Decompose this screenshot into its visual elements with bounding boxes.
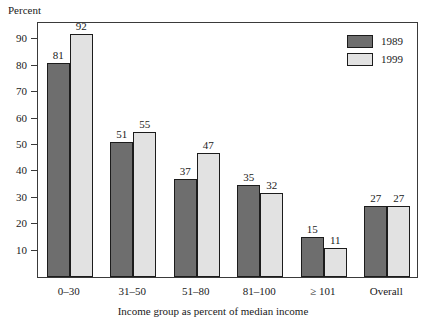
bar-value-label: 92	[66, 20, 97, 32]
bar	[174, 179, 197, 277]
bar-group: 3532	[229, 23, 293, 277]
y-axis-tick: 10	[31, 250, 38, 251]
legend-item: 1999	[347, 53, 403, 66]
bar	[364, 206, 387, 277]
bar-value-label: 27	[383, 192, 414, 204]
x-axis-tick-label: 0–30	[37, 284, 101, 298]
plot-frame: 102030405060708090 819251553747353215112…	[37, 22, 418, 278]
y-axis-tick-label: 80	[16, 58, 27, 73]
plot-area: 102030405060708090 819251553747353215112…	[38, 23, 417, 277]
bar-value-label: 11	[320, 234, 351, 246]
y-axis-tick: 50	[31, 144, 38, 145]
legend-label: 1989	[381, 35, 403, 48]
bar-group: 3747	[165, 23, 229, 277]
y-axis-tick-label: 20	[16, 216, 27, 231]
bar	[47, 63, 70, 277]
y-axis-tick: 90	[31, 38, 38, 39]
bar	[70, 34, 93, 277]
y-axis-tick-label: 30	[16, 190, 27, 205]
bar	[133, 132, 156, 277]
legend-swatch	[347, 35, 373, 48]
x-axis-tick-label: 31–50	[101, 284, 165, 298]
legend-label: 1999	[381, 53, 403, 66]
x-axis-tick-label: 81–100	[228, 284, 292, 298]
y-axis-tick: 20	[31, 223, 38, 224]
x-axis-tick-label: Overall	[355, 284, 419, 298]
y-axis-tick-label: 90	[16, 31, 27, 46]
y-axis-tick-label: 50	[16, 137, 27, 152]
y-axis-tick-label: 70	[16, 84, 27, 99]
y-axis-tick-label: 40	[16, 163, 27, 178]
bar-group: 1511	[292, 23, 356, 277]
bar	[324, 248, 347, 277]
bar-group: 8192	[38, 23, 102, 277]
bar-group: 5155	[102, 23, 166, 277]
bar	[237, 185, 260, 277]
bar-value-label: 55	[129, 118, 160, 130]
y-axis-tick: 30	[31, 197, 38, 198]
bar-value-label: 47	[193, 139, 224, 151]
y-axis-tick: 70	[31, 91, 38, 92]
y-axis-title: Percent	[8, 4, 41, 17]
legend-item: 1989	[347, 35, 403, 48]
bar-value-label: 32	[256, 179, 287, 191]
bar-chart-figure: Percent 102030405060708090 8192515537473…	[0, 0, 426, 328]
x-axis-tick-label: ≥ 101	[291, 284, 355, 298]
y-axis-tick: 80	[31, 65, 38, 66]
legend-swatch	[347, 53, 373, 66]
x-axis-title: Income group as percent of median income	[0, 304, 426, 318]
bar	[260, 193, 283, 277]
x-axis-tick-label: 51–80	[164, 284, 228, 298]
y-axis-tick: 60	[31, 118, 38, 119]
bar	[197, 153, 220, 277]
y-axis-tick-label: 60	[16, 111, 27, 126]
bar	[110, 142, 133, 277]
bar	[387, 206, 410, 277]
y-axis-tick: 40	[31, 170, 38, 171]
chart-legend: 19891999	[347, 35, 403, 71]
y-axis-tick-label: 10	[16, 243, 27, 258]
